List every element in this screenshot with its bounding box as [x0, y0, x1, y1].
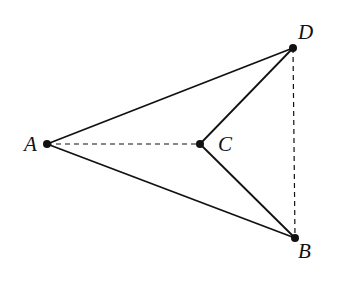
- segment-AD: [47, 48, 293, 144]
- segment-AB: [47, 144, 295, 238]
- label-B: B: [298, 239, 311, 263]
- label-C: C: [218, 132, 233, 156]
- dashed-segment-DB: [293, 48, 295, 238]
- segment-CD: [200, 48, 293, 144]
- geometry-diagram: ABCD: [0, 0, 337, 281]
- point-C: [196, 140, 204, 148]
- point-A: [43, 140, 51, 148]
- diagram-canvas: ABCD: [0, 0, 337, 281]
- label-A: A: [22, 132, 37, 156]
- segment-CB: [200, 144, 295, 238]
- label-D: D: [297, 20, 313, 44]
- point-D: [289, 44, 297, 52]
